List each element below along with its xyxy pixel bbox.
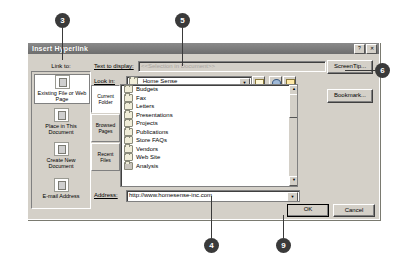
list-item-label: Web Site (136, 153, 160, 162)
folder-icon (124, 102, 133, 110)
folder-icon (124, 145, 133, 153)
dialog-title: Insert Hyperlink (30, 45, 353, 52)
screentip-button[interactable]: ScreenTip... (327, 60, 373, 74)
insert-hyperlink-dialog: Insert Hyperlink ? ✕ Link to: Existing F… (27, 42, 380, 220)
callout-leader-5 (182, 28, 183, 66)
callout-6: 6 (375, 63, 390, 78)
folder-icon (124, 136, 133, 144)
list-item[interactable]: Letters (121, 102, 289, 111)
callout-5: 5 (175, 13, 190, 28)
list-item-label: Presentations (136, 111, 173, 120)
list-item-label: Store FAQs (136, 136, 167, 145)
scope-button-recent-files[interactable]: Recent Files (91, 143, 120, 171)
scroll-thumb[interactable] (289, 94, 298, 118)
list-item[interactable]: Presentations (121, 111, 289, 120)
place-in-document-icon (54, 108, 69, 122)
email-address-icon (54, 178, 69, 192)
file-list-rows: Budgets Fax Letters Presentations Projec… (121, 85, 289, 170)
list-item[interactable]: Analysis (121, 162, 289, 171)
folder-icon (124, 111, 133, 119)
sidebar-item-create-new-document[interactable]: Create New Document (34, 142, 88, 169)
folder-icon (124, 162, 133, 170)
folder-icon (124, 153, 133, 161)
list-item-label: Budgets (136, 85, 158, 94)
create-new-document-icon (54, 142, 69, 156)
list-item-label: Letters (136, 102, 154, 111)
help-button[interactable]: ? (354, 44, 365, 54)
callout-leader-9 (283, 215, 284, 238)
list-item[interactable]: Fax (121, 94, 289, 103)
folder-icon (124, 119, 133, 127)
sidebar-item-label: E-mail Address (43, 193, 80, 199)
scope-button-browsed-pages[interactable]: Browsed Pages (91, 114, 120, 142)
existing-file-icon (55, 75, 70, 89)
callout-4: 4 (204, 238, 219, 253)
link-to-label: Link to: (36, 63, 86, 69)
list-item[interactable]: Vendors (121, 145, 289, 154)
address-label: Address: (94, 192, 118, 198)
list-item-label: Projects (136, 119, 158, 128)
callout-leader-3 (62, 28, 63, 60)
list-item[interactable]: Publications (121, 128, 289, 137)
list-item[interactable]: Web Site (121, 153, 289, 162)
ok-button[interactable]: OK (287, 204, 329, 217)
list-item-label: Fax (136, 94, 146, 103)
address-input[interactable]: http://www.homesense-inc.com ▼ (126, 190, 300, 202)
folder-icon (124, 85, 133, 93)
cancel-button[interactable]: Cancel (333, 204, 375, 217)
callout-leader-4 (211, 196, 212, 238)
folder-icon (124, 94, 133, 102)
address-value: http://www.homesense-inc.com (129, 192, 212, 198)
scroll-down-button[interactable]: ▼ (289, 176, 298, 186)
dialog-titlebar[interactable]: Insert Hyperlink ? ✕ (28, 43, 379, 54)
callout-3: 3 (55, 13, 70, 28)
scope-button-current-folder[interactable]: Current Folder (91, 85, 120, 113)
list-item[interactable]: Store FAQs (121, 136, 289, 145)
callout-9: 9 (276, 238, 291, 253)
look-in-label: Look in: (94, 78, 115, 84)
text-to-display-label: Text to display: (94, 63, 134, 69)
callout-leader-6 (345, 70, 375, 71)
sidebar-item-place-in-document[interactable]: Place in This Document (34, 108, 88, 135)
sidebar-item-email-address[interactable]: E-mail Address (34, 178, 88, 199)
screenshot-canvas: 3 5 6 4 9 Insert Hyperlink ? ✕ Link to: … (0, 0, 405, 274)
close-button[interactable]: ✕ (366, 44, 377, 54)
list-item-label: Publications (136, 128, 168, 137)
file-list[interactable]: Budgets Fax Letters Presentations Projec… (120, 84, 298, 187)
dialog-body: Link to: Existing File or Web Page Place… (28, 54, 379, 219)
sidebar-item-existing-file[interactable]: Existing File or Web Page (34, 74, 90, 104)
text-to-display-input[interactable]: <<Selection in Document>> (138, 61, 326, 72)
list-item[interactable]: Projects (121, 119, 289, 128)
file-list-scrollbar[interactable]: ▲ ▼ (289, 85, 297, 186)
list-item[interactable]: Budgets (121, 85, 289, 94)
list-item-label: Analysis (136, 162, 158, 171)
sidebar-item-label: Existing File or Web Page (38, 90, 87, 102)
sidebar-item-label: Create New Document (46, 157, 75, 169)
link-to-nav-pane: Existing File or Web Page Place in This … (31, 71, 91, 209)
list-item-label: Vendors (136, 145, 158, 154)
sidebar-item-label: Place in This Document (45, 123, 76, 135)
bookmark-button[interactable]: Bookmark... (327, 89, 373, 103)
folder-icon (124, 128, 133, 136)
chevron-down-icon[interactable]: ▼ (287, 192, 298, 202)
